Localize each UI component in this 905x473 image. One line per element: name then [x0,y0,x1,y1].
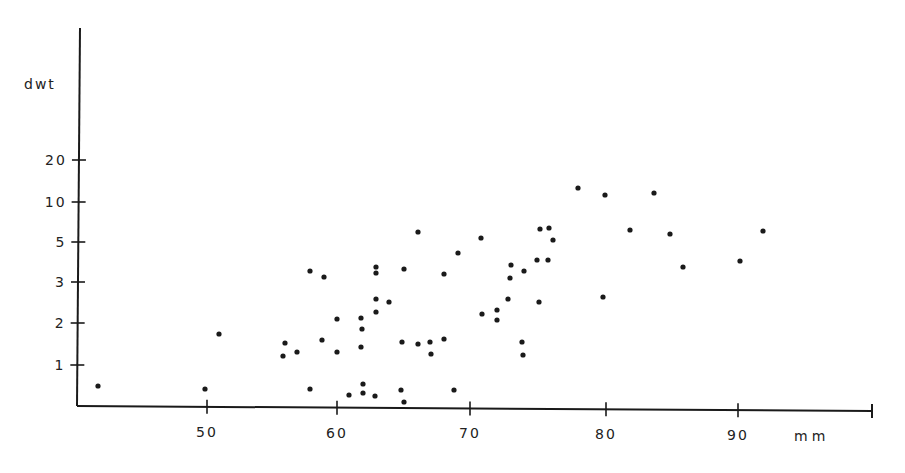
data-point [294,349,299,354]
data-point [386,299,391,304]
data-point [550,237,555,242]
data-point [667,231,672,236]
data-point [478,235,483,240]
data-point [520,352,525,357]
x-tick-label: 60 [326,425,348,441]
y-tick-label: 3 [55,274,66,290]
data-point [321,274,326,279]
data-point [441,271,446,276]
data-point [95,383,100,388]
data-point [202,386,207,391]
data-point [360,381,365,386]
data-point [536,299,541,304]
data-point [427,339,432,344]
x-tick-label: 80 [595,426,617,442]
data-point [508,262,513,267]
data-point [602,192,607,197]
axes [77,28,872,418]
data-point [455,250,460,255]
data-point [399,339,404,344]
data-point [494,307,499,312]
data-point [441,336,446,341]
data-point [546,225,551,230]
data-point [216,331,221,336]
data-point [372,393,377,398]
y-tick-label: 10 [45,194,67,210]
data-point [534,257,539,262]
y-tick-label: 20 [45,152,67,168]
y-tick-label: 2 [55,315,66,331]
y-tick-label: 5 [55,234,66,250]
data-point [507,275,512,280]
data-point [428,351,433,356]
data-point [334,316,339,321]
data-point [415,229,420,234]
data-point [359,326,364,331]
data-point [680,264,685,269]
data-point [319,337,324,342]
data-point [479,311,484,316]
data-point [545,257,550,262]
data-point [415,341,420,346]
x-axis [77,406,872,411]
data-point [494,317,499,322]
data-point [451,387,456,392]
data-point [398,387,403,392]
y-ticks: 12351020 [45,152,86,373]
data-point [346,392,351,397]
data-point [373,296,378,301]
x-tick-label: 50 [196,424,218,440]
x-tick-label: 90 [727,427,749,443]
data-point [401,266,406,271]
x-axis-label: mm [794,428,829,444]
data-point [401,399,406,404]
y-tick-label: 1 [54,357,65,373]
data-point [373,270,378,275]
data-point [280,353,285,358]
data-point [373,264,378,269]
data-point [537,226,542,231]
x-tick-label: 70 [459,425,481,441]
y-axis-label: dwt [24,76,56,92]
data-point [334,349,339,354]
data-point [360,390,365,395]
data-point [358,315,363,320]
data-point [519,339,524,344]
data-point [651,190,656,195]
data-point [307,268,312,273]
data-point [521,268,526,273]
data-point [307,386,312,391]
data-point [575,185,580,190]
data-point [737,258,742,263]
data-point [282,340,287,345]
scatter-chart: 5060708090 12351020 [0,0,905,473]
data-point [760,228,765,233]
data-point [373,309,378,314]
data-point [627,227,632,232]
data-points [95,185,765,404]
y-axis [77,28,80,406]
data-point [505,296,510,301]
data-point [358,344,363,349]
data-point [600,294,605,299]
